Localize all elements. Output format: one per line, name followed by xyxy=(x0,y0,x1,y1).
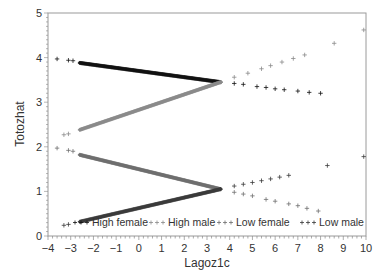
x-axis-title: Lagoz1c xyxy=(184,256,229,270)
x-tick-label: −1 xyxy=(110,242,123,254)
x-tick-label: 7 xyxy=(295,242,301,254)
y-tick-label: 3 xyxy=(36,96,42,108)
scatter-chart: −4−3−2−1012345678910 012345 High femaleH… xyxy=(0,0,390,277)
x-axis-tick-labels: −4−3−2−1012345678910 xyxy=(42,242,372,254)
x-tick-label: 8 xyxy=(318,242,324,254)
legend-label: Low male xyxy=(319,216,364,228)
x-tick-label: 5 xyxy=(249,242,255,254)
x-tick-label: 1 xyxy=(159,242,165,254)
y-tick-label: 0 xyxy=(36,230,42,242)
y-axis-tick-labels: 012345 xyxy=(36,7,42,242)
x-tick-label: 3 xyxy=(204,242,210,254)
x-tick-label: 4 xyxy=(227,242,233,254)
x-tick-label: 2 xyxy=(181,242,187,254)
x-tick-label: 9 xyxy=(340,242,346,254)
y-tick-label: 5 xyxy=(36,7,42,19)
legend-label: Low female xyxy=(236,216,290,228)
x-tick-label: −4 xyxy=(42,242,55,254)
y-tick-label: 4 xyxy=(36,52,42,64)
x-tick-label: −2 xyxy=(87,242,100,254)
x-tick-label: 10 xyxy=(360,242,372,254)
x-axis-ticks xyxy=(48,236,366,240)
y-axis-title: Totozhat xyxy=(13,101,27,147)
legend-label: High female xyxy=(92,216,148,228)
x-tick-label: −3 xyxy=(64,242,77,254)
x-tick-label: 0 xyxy=(136,242,142,254)
y-tick-label: 1 xyxy=(36,185,42,197)
y-axis-ticks xyxy=(44,13,48,236)
x-tick-label: 6 xyxy=(272,242,278,254)
y-tick-label: 2 xyxy=(36,141,42,153)
legend-label: High male xyxy=(168,216,215,228)
